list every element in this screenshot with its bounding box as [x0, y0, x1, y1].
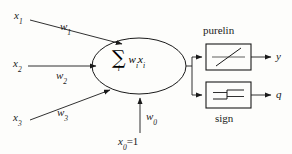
input-label-x2: x2 [13, 58, 22, 72]
summation-term: wixi [129, 53, 145, 68]
weight-label-w2: w2 [56, 70, 67, 84]
summation-expression: ∑ i wixi [112, 50, 145, 72]
input-arrow-1 [30, 20, 122, 44]
input-label-x3: x3 [13, 112, 22, 126]
sign-label: sign [215, 113, 233, 124]
weight-label-w3: w3 [57, 107, 68, 121]
sign-block [206, 82, 251, 108]
step-function-icon [213, 90, 244, 99]
purelin-label: purelin [203, 25, 234, 36]
bias-weight-label-w0: w0 [146, 111, 157, 125]
weight-label-w1: w1 [60, 21, 71, 35]
output-label-q: q [276, 89, 282, 100]
input-arrow-3 [30, 90, 110, 120]
input-label-x1: x1 [14, 10, 23, 24]
bias-input-label-x0: x0=1 [118, 136, 138, 150]
output-label-y: y [276, 51, 281, 62]
diagram-canvas [0, 0, 292, 154]
neuron-diagram: x1 w1 x2 w2 x3 w3 w0 x0=1 ∑ i wixi purel… [0, 0, 292, 154]
sigma-icon: ∑ i [112, 50, 126, 72]
